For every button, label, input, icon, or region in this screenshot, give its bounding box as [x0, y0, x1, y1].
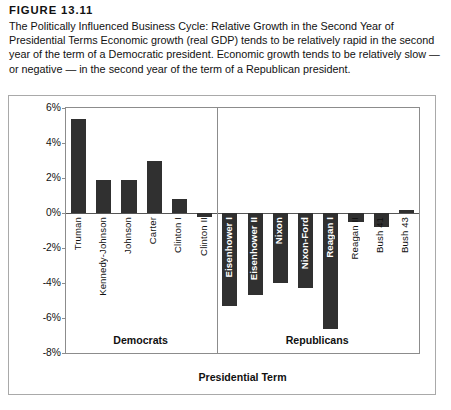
bar [147, 161, 162, 214]
bar [399, 210, 414, 214]
bar [71, 119, 86, 214]
y-tick-label: -6% [43, 313, 61, 323]
bar-label: Johnson [123, 217, 135, 254]
figure-caption-block: FIGURE 13.11 The Politically Influenced … [9, 3, 441, 76]
group-label-democrats: Democrats [81, 334, 201, 346]
zero-baseline [66, 213, 419, 214]
y-tick-mark [62, 353, 66, 354]
y-tick-mark [62, 318, 66, 319]
bar-label: Bush 41 [375, 217, 387, 253]
y-tick-label: 2% [46, 173, 61, 183]
y-tick-label: -8% [43, 348, 61, 358]
y-tick-label: -4% [43, 278, 61, 288]
bar-label: Nixon [274, 217, 286, 244]
y-tick-label: 6% [46, 103, 61, 113]
bar-label: Eisenhower I [224, 217, 236, 277]
bar-label: Bush 43 [400, 217, 412, 253]
bar-label: Reagan II [350, 217, 362, 260]
bar-label: Clinton I [173, 217, 185, 253]
y-tick-mark [62, 178, 66, 179]
bar-label: Clinton II [199, 217, 211, 256]
bar [121, 180, 136, 213]
y-tick-label: -2% [43, 243, 61, 253]
figure-number: FIGURE 13.11 [9, 3, 441, 17]
y-tick-label: 0% [46, 208, 61, 218]
y-tick-mark [62, 283, 66, 284]
bar [172, 199, 187, 213]
figure-frame: Second-Year Growth Minus Average Growth … [8, 95, 436, 395]
bar-label: Kennedy-Johnson [98, 217, 110, 296]
y-tick-mark [62, 248, 66, 249]
party-divider-line [217, 108, 218, 353]
bar-label: Eisenhower II [249, 217, 261, 280]
figure-caption-text: The Politically Influenced Business Cycl… [9, 19, 441, 76]
plot-area: 6%4%2%0%-2%-4%-6%-8% TrumanKennedy-Johns… [65, 107, 420, 354]
bar [96, 180, 111, 213]
bar-label: Carter [148, 217, 160, 244]
bar-label: Nixon-Ford [300, 217, 312, 269]
group-label-republicans: Republicans [257, 334, 377, 346]
bar-label: Reagan I [325, 217, 337, 258]
bar-label: Truman [73, 217, 85, 250]
x-axis-title: Presidential Term [65, 371, 420, 383]
y-tick-mark [62, 108, 66, 109]
y-tick-mark [62, 143, 66, 144]
bar [197, 213, 212, 217]
y-tick-label: 4% [46, 138, 61, 148]
